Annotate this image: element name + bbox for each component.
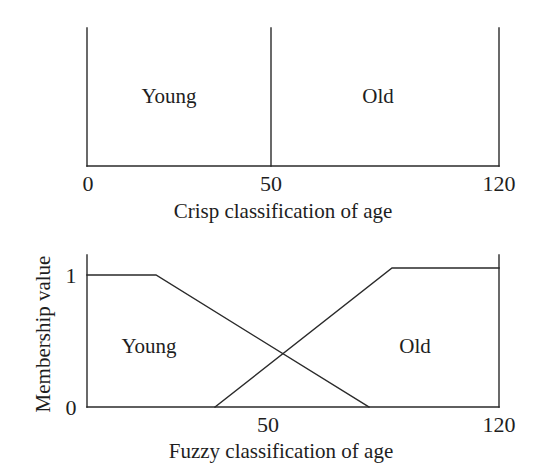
crisp-x-tick-0: 0: [83, 171, 94, 196]
crisp-x-tick-50: 50: [260, 171, 282, 196]
fuzzy-caption: Fuzzy classification of age: [169, 439, 394, 463]
fuzzy-chart: Young Old 1 0 Membership value 50 120 Fu…: [31, 255, 516, 463]
fuzzy-region-young-label: Young: [121, 334, 177, 358]
age-classification-figure: Young Old 0 50 120 Crisp classification …: [0, 0, 541, 470]
fuzzy-x-tick-120: 120: [483, 412, 516, 437]
crisp-x-tick-120: 120: [483, 171, 516, 196]
crisp-caption: Crisp classification of age: [174, 199, 393, 223]
fuzzy-region-old-label: Old: [399, 334, 431, 358]
crisp-region-old-label: Old: [362, 84, 394, 108]
fuzzy-y-tick-0: 0: [66, 395, 77, 420]
crisp-chart: Young Old 0 50 120 Crisp classification …: [83, 28, 516, 223]
crisp-region-young-label: Young: [141, 84, 197, 108]
fuzzy-y-axis-label: Membership value: [31, 256, 55, 413]
fuzzy-y-tick-1: 1: [66, 263, 77, 288]
fuzzy-x-tick-50: 50: [257, 412, 279, 437]
